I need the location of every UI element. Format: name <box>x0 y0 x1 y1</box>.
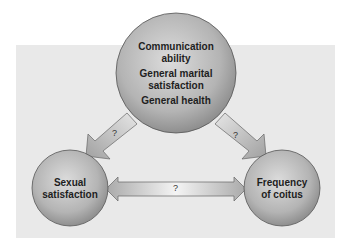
top-line-5: General health <box>141 95 210 106</box>
top-line-2: ability <box>162 53 191 64</box>
edge-label-top-right: ? <box>233 130 238 140</box>
right-line-2: of coitus <box>261 189 303 200</box>
edge-label-top-left: ? <box>112 128 117 138</box>
left-line-1: Sexual <box>54 177 86 188</box>
node-left-label: Sexual satisfaction <box>36 177 104 201</box>
node-top-label: Communication ability General marital sa… <box>118 41 234 110</box>
edge-label-left-right: ? <box>173 183 178 193</box>
node-right-label: Frequency of coitus <box>246 177 318 201</box>
top-line-3: General marital <box>140 68 213 79</box>
top-line-1: Communication <box>138 41 214 52</box>
left-line-2: satisfaction <box>42 189 98 200</box>
diagram-canvas <box>0 0 346 246</box>
arrow-top-to-right <box>215 113 266 159</box>
top-line-4: satisfaction <box>148 80 204 91</box>
right-line-1: Frequency <box>257 177 308 188</box>
